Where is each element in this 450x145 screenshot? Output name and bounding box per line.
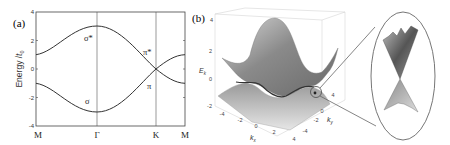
y-tick-neg4: -4 [29, 123, 35, 129]
x-tick-4: 4 [292, 136, 295, 142]
panel-a-label: (a) [13, 17, 26, 30]
dirac-cone-inset [320, 12, 435, 140]
x-tick-neg4: -4 [220, 111, 225, 117]
x-tick-m-left: M [34, 130, 42, 140]
z-tick-4: 4 [210, 17, 213, 23]
panel-a: (a) 4 2 0 -2 -4 Energy /t0 M Γ [13, 9, 189, 140]
magnifier-line-top [320, 27, 375, 88]
panel-b-label: (b) [192, 12, 205, 25]
y-ticks [36, 41, 185, 98]
x-tick-m-right: M [181, 130, 189, 140]
lower-band-curve [36, 69, 185, 112]
ky-axis-label: ky [327, 116, 334, 125]
kx-axis-label: kx [250, 134, 257, 143]
dirac-point [314, 92, 317, 95]
y-tick-neg2: -2 [29, 95, 35, 101]
panel-b: (b) 4 2 0 -2 Ek -4 -2 0 2 [192, 8, 345, 143]
x-tick-neg2: -2 [238, 117, 243, 123]
sigma-star-label: σ* [84, 33, 93, 43]
z-tick-0: 0 [209, 76, 212, 82]
pi-star-label: π* [143, 47, 152, 57]
z-axis-label: Ek [199, 67, 207, 76]
y-tick-neg2: -2 [314, 117, 319, 123]
x-tick-0: 0 [254, 123, 257, 129]
y-tick-2: 2 [31, 38, 35, 44]
y-tick-4: 4 [31, 9, 35, 15]
x-tick-gamma: Γ [94, 130, 99, 140]
pi-label: π [147, 81, 152, 91]
upper-band-curve [36, 26, 185, 69]
y-tick-0: 0 [31, 66, 35, 72]
z-tick-2: 2 [209, 48, 212, 54]
y-tick-0: 0 [320, 108, 323, 114]
x-tick-k: K [153, 130, 160, 140]
x-tick-2: 2 [272, 129, 275, 135]
y-tick-neg4: -4 [303, 128, 308, 134]
sigma-label: σ [85, 96, 90, 106]
y-tick-4: 4 [331, 92, 334, 98]
y-axis-label: Energy /t0 [14, 50, 25, 87]
z-tick-neg2: -2 [207, 103, 212, 109]
